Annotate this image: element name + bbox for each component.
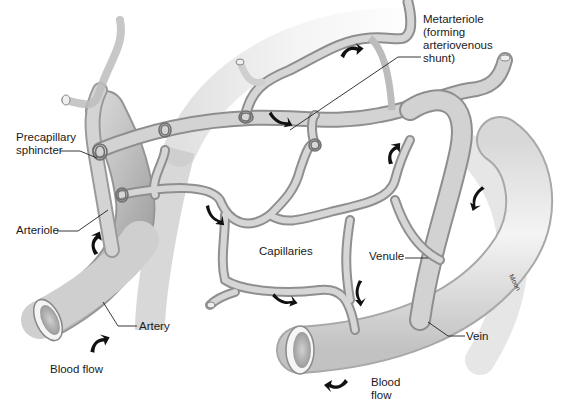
label-precapillary-sphincter: Precapillary sphincter bbox=[16, 131, 76, 157]
label-vein: Vein bbox=[466, 330, 488, 343]
flow-arrow-vein-out-icon bbox=[324, 379, 348, 392]
leader-artery bbox=[103, 302, 137, 326]
flow-arrow-venule-down-icon bbox=[469, 185, 485, 213]
label-capillaries: Capillaries bbox=[259, 245, 313, 258]
label-venule: Venule bbox=[369, 250, 404, 263]
label-artery: Artery bbox=[139, 320, 170, 333]
vein-lumen bbox=[293, 332, 311, 368]
label-arteriole: Arteriole bbox=[16, 224, 59, 237]
artery-arteriole bbox=[28, 20, 140, 345]
label-blood-flow-left: Blood flow bbox=[50, 363, 103, 376]
flow-arrow-artery-in-icon bbox=[85, 331, 112, 354]
label-blood-flow-right: Blood flow bbox=[371, 376, 400, 402]
label-metarteriole: Metarteriole (forming arteriovenous shun… bbox=[423, 13, 493, 65]
